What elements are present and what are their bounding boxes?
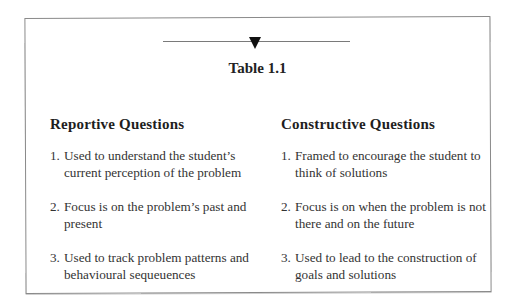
- list-item: 1. Used to understand the student’s curr…: [50, 147, 260, 181]
- item-text: Focus is on the problem’s past and prese…: [64, 198, 260, 232]
- item-text: Used to track problem patterns and behav…: [64, 249, 260, 283]
- list-item: 1. Framed to encourage the student to th…: [281, 147, 491, 181]
- column-heading: Constructive Questions: [281, 116, 491, 133]
- item-text: Focus is on when the problem is not ther…: [295, 198, 491, 232]
- constructive-questions-column: Constructive Questions 1. Framed to enco…: [281, 116, 491, 300]
- item-number: 2.: [281, 198, 295, 232]
- item-text: Used to understand the student’s current…: [64, 147, 260, 181]
- item-text: Used to lead to the construction of goal…: [295, 249, 491, 283]
- list-item: 2. Focus is on the problem’s past and pr…: [50, 198, 260, 232]
- item-number: 2.: [50, 198, 64, 232]
- down-triangle-icon: [249, 37, 261, 49]
- list-item: 3. Used to track problem patterns and be…: [50, 249, 260, 283]
- reportive-questions-column: Reportive Questions 1. Used to understan…: [50, 116, 260, 300]
- item-text: Framed to encourage the student to think…: [295, 147, 491, 181]
- item-number: 3.: [281, 249, 295, 283]
- list-item: 2. Focus is on when the problem is not t…: [281, 198, 491, 232]
- column-heading: Reportive Questions: [50, 116, 260, 133]
- item-number: 1.: [281, 147, 295, 181]
- list-item: 3. Used to lead to the construction of g…: [281, 249, 491, 283]
- table-title: Table 1.1: [0, 60, 515, 77]
- item-number: 1.: [50, 147, 64, 181]
- item-number: 3.: [50, 249, 64, 283]
